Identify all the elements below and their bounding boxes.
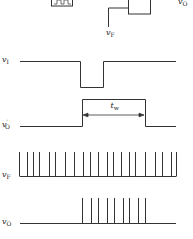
feedback-label: vF: [106, 28, 115, 38]
monostable-block: [129, 0, 151, 14]
pulse-source-block: [52, 0, 73, 6]
top-circuit-fragment: [52, 0, 151, 27]
signal-label: vI: [2, 55, 10, 65]
tw-dimension-arrow: [83, 113, 144, 117]
signal-label: vF: [2, 170, 11, 180]
feedback-wire: [109, 8, 129, 27]
tw-label: tw: [111, 101, 120, 111]
signal-vf: [20, 152, 177, 177]
signal-vo: [20, 198, 176, 224]
signal-label: v′O: [2, 118, 10, 130]
waveform: [20, 62, 176, 88]
pulse-glyph-icon: [54, 0, 71, 4]
signal-label: vO: [2, 217, 12, 227]
signal-voprime: [20, 100, 176, 127]
timing-diagram: vF vO vIv′OvFvOtw: [0, 0, 193, 239]
signal-vi: [20, 62, 176, 88]
waveform: [20, 100, 176, 127]
arrow-left-icon: [83, 113, 88, 117]
output-label-top: vO: [178, 0, 188, 7]
arrow-right-icon: [139, 113, 144, 117]
